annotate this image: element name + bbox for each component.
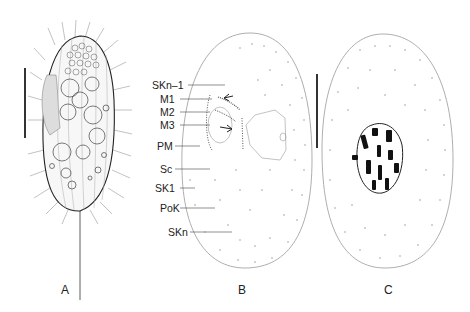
panel-label-a: A xyxy=(61,283,69,297)
label-sc: Sc xyxy=(160,164,172,175)
label-pm: PM xyxy=(157,141,173,152)
label-skn-1: SKn–1 xyxy=(152,80,184,91)
label-m3: M3 xyxy=(160,120,175,131)
panel-b-drawing xyxy=(175,33,312,268)
macronucleus xyxy=(352,124,403,194)
label-m2: M2 xyxy=(160,107,175,118)
panel-label-b: B xyxy=(238,283,246,297)
panel-label-c: C xyxy=(384,283,393,297)
label-skn: SKn xyxy=(168,227,188,238)
label-m1: M1 xyxy=(160,94,175,105)
figure-canvas xyxy=(0,0,470,312)
panel-c-drawing xyxy=(317,34,453,268)
label-sk1: SK1 xyxy=(155,183,175,194)
panel-a-drawing xyxy=(25,20,132,300)
label-pok: PoK xyxy=(160,203,180,214)
